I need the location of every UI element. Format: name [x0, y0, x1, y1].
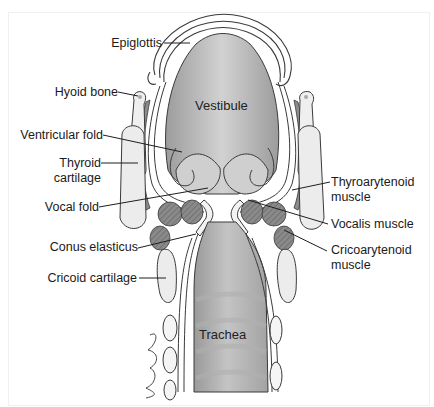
label-thyroid-cartilage: Thyroid cartilage	[54, 156, 101, 186]
label-vocalis-muscle: Vocalis muscle	[331, 217, 414, 232]
label-hyoid-bone: Hyoid bone	[55, 85, 118, 100]
label-thyroarytenoid-line2: muscle	[331, 190, 414, 205]
label-thyroid-line1: Thyroid	[54, 156, 101, 171]
label-trachea: Trachea	[199, 327, 246, 342]
label-cricoarytenoid-line2: muscle	[331, 258, 412, 273]
label-cricoarytenoid-line1: Cricoarytenoid	[331, 243, 412, 258]
label-vestibule: Vestibule	[195, 98, 248, 113]
label-thyroarytenoid-muscle: Thyroarytenoid muscle	[331, 175, 414, 205]
label-cricoid-cartilage: Cricoid cartilage	[47, 271, 137, 286]
label-thyroarytenoid-line1: Thyroarytenoid	[331, 175, 414, 190]
label-vocal-fold: Vocal fold	[45, 200, 99, 215]
label-epiglottis: Epiglottis	[111, 36, 162, 51]
artist-signature	[146, 334, 157, 398]
label-thyroid-line2: cartilage	[54, 171, 101, 186]
label-conus-elasticus: Conus elasticus	[50, 240, 138, 255]
label-cricoarytenoid-muscle: Cricoarytenoid muscle	[331, 243, 412, 273]
label-ventricular-fold: Ventricular fold	[20, 128, 103, 143]
trachea-lumen	[194, 222, 268, 392]
